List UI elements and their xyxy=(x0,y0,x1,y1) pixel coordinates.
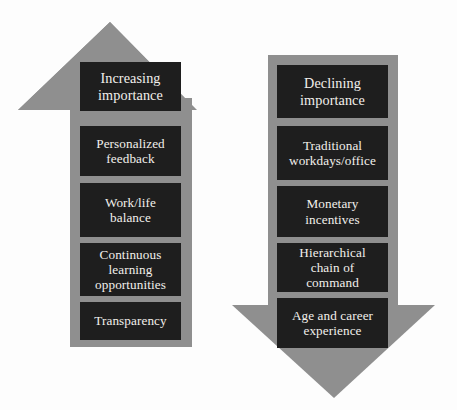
arrows-diagram: Increasing importance Personalized feedb… xyxy=(0,0,457,410)
up-arrow-item-2-text: Work/life balance xyxy=(105,195,156,226)
up-arrow-item-2-box: Work/life balance xyxy=(80,183,181,237)
down-arrow-item-1-text: Traditional workdays/office xyxy=(289,138,376,169)
down-arrow-item-3-box: Hierarchical chain of command xyxy=(277,243,388,292)
down-arrow-item-2-box: Monetary incentives xyxy=(277,186,388,237)
down-arrow-heading-box: Declining importance xyxy=(277,65,388,118)
down-arrow-item-4-box: Age and career experience xyxy=(277,298,388,348)
up-arrow-heading-text: Increasing importance xyxy=(98,70,163,103)
up-arrow-item-4-box: Transparency xyxy=(80,302,181,340)
up-arrow-item-1-box: Personalized feedback xyxy=(80,126,181,176)
up-arrow-item-1-text: Personalized feedback xyxy=(96,136,165,167)
up-arrow-item-3-box: Continuous learning opportunities xyxy=(80,243,181,296)
down-arrow-item-1-box: Traditional workdays/office xyxy=(277,126,388,180)
label-boxes-layer: Increasing importance Personalized feedb… xyxy=(0,0,457,410)
down-arrow-heading-text: Declining importance xyxy=(300,75,365,108)
up-arrow-item-3-text: Continuous learning opportunities xyxy=(95,247,166,293)
up-arrow-heading-box: Increasing importance xyxy=(80,62,181,111)
up-arrow-item-4-text: Transparency xyxy=(94,313,167,328)
down-arrow-item-3-text: Hierarchical chain of command xyxy=(299,245,365,291)
down-arrow-item-2-text: Monetary incentives xyxy=(305,196,359,227)
down-arrow-item-4-text: Age and career experience xyxy=(292,308,373,339)
